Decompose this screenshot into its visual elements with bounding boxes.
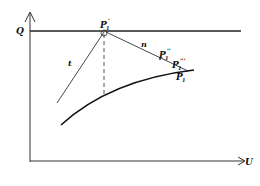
svg-text:1: 1 [182,77,185,83]
curve [61,70,194,125]
x-axis [30,157,245,165]
svg-text:1: 1 [178,65,181,71]
label-p1: P 1 [175,72,185,83]
tangent-label: t [68,58,72,68]
normal-label: n [141,39,147,49]
svg-text:'': '' [167,47,171,54]
diagram-canvas: Q U t n P 1 ' P 1 '' P 1 ''' P 1 [0,0,260,186]
svg-text:''': ''' [180,57,186,64]
x-axis-label-u: U [245,157,254,167]
svg-text:1: 1 [106,25,109,31]
label-p1-prime: P 1 ' [99,17,110,31]
label-p1-double-prime: P 1 '' [158,47,171,61]
diagram-figure: Q U t n P 1 ' P 1 '' P 1 ''' P 1 [0,0,260,186]
svg-text:': ' [108,17,110,24]
y-axis [25,12,35,162]
svg-text:1: 1 [165,55,168,61]
y-axis-label-q: Q [16,26,24,36]
tangent-line-t [57,32,104,103]
